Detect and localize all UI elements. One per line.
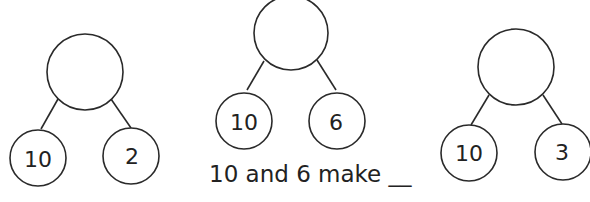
part-value-left: 10 bbox=[24, 147, 52, 172]
whole-circle[interactable] bbox=[254, 0, 328, 70]
part-value-right: 2 bbox=[125, 144, 139, 169]
number-bond-1: 10 2 bbox=[10, 34, 159, 186]
number-bond-2: 10 6 10 and 6 make __ bbox=[209, 0, 412, 187]
connector-left bbox=[471, 95, 489, 125]
connector-right bbox=[317, 60, 336, 90]
part-value-left: 10 bbox=[230, 110, 258, 135]
whole-circle[interactable] bbox=[478, 29, 554, 105]
connector-right bbox=[543, 95, 562, 124]
connector-right bbox=[111, 99, 131, 128]
connector-left bbox=[247, 61, 264, 90]
connector-left bbox=[41, 99, 58, 129]
part-value-left: 10 bbox=[455, 141, 483, 166]
number-bond-worksheet: 10 2 10 6 10 and 6 make __ 10 3 bbox=[0, 0, 590, 202]
whole-circle[interactable] bbox=[47, 34, 123, 110]
part-value-right: 3 bbox=[555, 140, 569, 165]
number-bond-3: 10 3 bbox=[441, 29, 590, 181]
sentence-prompt: 10 and 6 make __ bbox=[209, 161, 412, 187]
part-value-right: 6 bbox=[329, 110, 343, 135]
